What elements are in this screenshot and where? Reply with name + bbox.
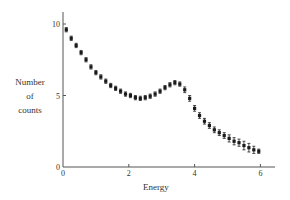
data-point	[129, 94, 132, 97]
axis-ticks	[63, 24, 260, 167]
tick-labels: 02460510	[52, 20, 262, 178]
data-point	[213, 128, 216, 131]
y-axis-label-line-3: counts	[8, 106, 52, 115]
data-point	[232, 140, 235, 143]
data-point	[149, 95, 152, 98]
data-point	[79, 51, 82, 54]
data-point	[89, 65, 92, 68]
data-point	[188, 97, 191, 100]
y-axis-label: Number of counts	[8, 78, 52, 115]
data-points	[65, 28, 261, 153]
data-point	[65, 28, 68, 31]
data-point	[109, 84, 112, 87]
data-point	[228, 137, 231, 140]
data-point	[168, 83, 171, 86]
data-point	[193, 107, 196, 110]
data-point	[114, 87, 117, 90]
y-axis-label-line-2: of	[8, 92, 52, 101]
data-point	[223, 134, 226, 137]
data-point	[163, 86, 166, 89]
data-point	[75, 44, 78, 47]
x-tick-label: 4	[193, 169, 197, 178]
data-point	[104, 80, 107, 83]
x-tick-label: 2	[127, 169, 131, 178]
data-point	[99, 75, 102, 78]
data-point	[134, 96, 137, 99]
data-point	[94, 71, 97, 74]
data-point	[208, 124, 211, 127]
x-axis-label: Energy	[143, 183, 169, 192]
y-tick-label: 5	[56, 92, 60, 101]
data-point	[247, 146, 250, 149]
data-point	[242, 144, 245, 147]
data-point	[178, 82, 181, 85]
data-point	[124, 92, 127, 95]
data-point	[144, 96, 147, 99]
data-point	[139, 97, 142, 100]
data-point	[70, 37, 73, 40]
y-axis-label-line-1: Number	[8, 78, 52, 87]
data-point	[119, 90, 122, 93]
x-tick-label: 0	[61, 169, 65, 178]
data-point	[257, 150, 260, 153]
data-point	[158, 90, 161, 93]
axes	[63, 12, 275, 167]
y-tick-label: 10	[52, 20, 60, 29]
data-point	[252, 148, 255, 151]
error-bars	[65, 28, 260, 154]
data-point	[237, 141, 240, 144]
y-tick-label: 0	[56, 163, 60, 172]
x-tick-label: 6	[258, 169, 262, 178]
data-point	[198, 114, 201, 117]
data-point	[173, 81, 176, 84]
data-point	[203, 120, 206, 123]
data-point	[84, 58, 87, 61]
data-point	[154, 92, 157, 95]
data-point	[183, 88, 186, 91]
data-point	[218, 131, 221, 134]
